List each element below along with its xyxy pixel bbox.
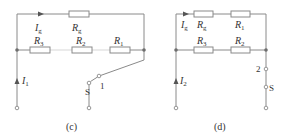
junction-right-d	[264, 48, 268, 52]
current-arrow-ig-c	[38, 12, 44, 17]
label-r2-c: R2	[75, 35, 86, 48]
label-r1-c: R1	[113, 35, 124, 48]
label-i1-c: I1	[21, 75, 29, 88]
terminal-right-c	[87, 106, 91, 110]
resistor-r1-d	[231, 11, 250, 17]
current-arrow-i1-c	[15, 78, 20, 84]
label-r1-d: R1	[234, 19, 245, 32]
switch-contact-2-d	[264, 67, 268, 71]
junction-left-c	[15, 48, 19, 52]
label-i2-d: I2	[179, 75, 187, 88]
current-arrow-ig-d	[183, 12, 189, 17]
label-r2-d: R2	[234, 35, 245, 48]
current-arrow-i2-d	[174, 78, 179, 84]
resistor-rg-c	[69, 11, 89, 17]
label-rg-c: Rg	[71, 22, 82, 35]
label-r3-d: R3	[196, 35, 207, 48]
label-r3-c: R3	[33, 35, 44, 48]
resistor-rg-d	[194, 11, 213, 17]
junction-right-c	[142, 48, 146, 52]
label-switch-pos-2-d: 2	[256, 64, 261, 74]
circuit-d: Ig Rg R1 R3 R2 I2 2 S (d)	[174, 11, 275, 133]
switch-blade-c	[91, 77, 98, 82]
terminal-left-c	[15, 106, 19, 110]
switch-pivot-d	[264, 85, 268, 89]
caption-c: (c)	[66, 121, 77, 133]
label-switch-s-d: S	[269, 83, 274, 93]
caption-d: (d)	[214, 121, 226, 133]
switch-contact-1-c	[97, 74, 101, 78]
label-ig-d: Ig	[180, 19, 188, 32]
label-rg-d: Rg	[196, 19, 207, 32]
switch-pivot-c	[87, 81, 91, 85]
circuit-c: Ig Rg R3 R2 R1 I1 S 1 (c)	[15, 11, 146, 133]
terminal-right-d	[264, 106, 268, 110]
label-switch-pos-1-c: 1	[100, 81, 105, 91]
left-and-top-wire-c	[17, 14, 69, 108]
label-ig-c: Ig	[34, 22, 42, 35]
label-switch-s-c: S	[85, 87, 90, 97]
switch-wire-c	[101, 60, 145, 76]
circuit-diagram-figure: Ig Rg R3 R2 R1 I1 S 1 (c) Ig Rg	[0, 0, 295, 140]
junction-left-d	[174, 48, 178, 52]
top-right-wire-d	[250, 14, 266, 67]
terminal-left-d	[174, 106, 178, 110]
